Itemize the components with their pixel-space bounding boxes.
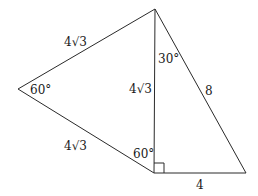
side-label-hypotenuse: 8	[205, 84, 213, 98]
side-label-shared-vertical: 4√3	[129, 82, 152, 96]
hypotenuse-edge	[155, 9, 246, 173]
side-label-bottom: 4	[196, 178, 204, 192]
side-label-top-left: 4√3	[64, 35, 87, 49]
angle-label-bottom-left: 60°	[133, 147, 154, 161]
right-angle-marker	[154, 163, 164, 173]
angle-label-top-right: 30°	[158, 52, 179, 66]
angle-label-left: 60°	[30, 83, 51, 97]
top-left-edge	[18, 9, 155, 89]
side-label-left-bottom: 4√3	[64, 139, 87, 153]
geometry-diagram: 4√3 4√3 4√3 8 4 60° 30° 60°	[0, 0, 258, 196]
